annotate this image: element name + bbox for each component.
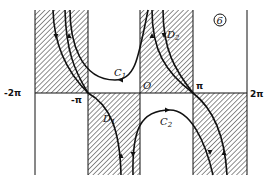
label-two-pi: 2π	[250, 89, 263, 99]
label-neg-pi: -π	[71, 95, 82, 105]
label-c2: C2	[160, 116, 173, 129]
panel-label: 6	[214, 14, 226, 26]
label-neg-two-pi: -2π	[4, 88, 21, 98]
hatch-bottom-center-left	[88, 93, 140, 175]
phase-diagram: -2π -π O π 2π C1 C2 D1 D2 6	[0, 0, 275, 190]
label-origin: O	[143, 80, 151, 91]
label-pi: π	[196, 81, 203, 91]
arrow-icon	[165, 108, 170, 113]
label-c1: C1	[114, 67, 126, 80]
svg-text:6: 6	[217, 15, 224, 26]
